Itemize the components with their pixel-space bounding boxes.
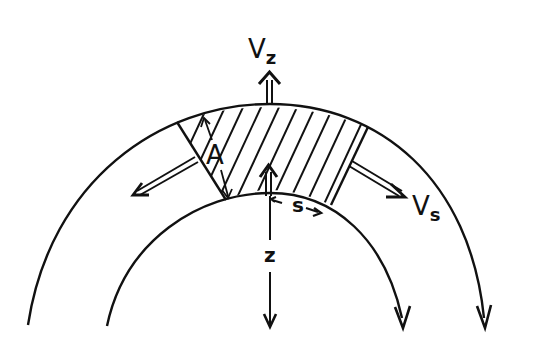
s-label: s [292,195,304,215]
vz-label: Vz [248,36,276,62]
inner-arc [107,193,402,326]
hatched-element [150,90,395,230]
vs-label-sub: s [430,204,441,225]
vs-arrow-right-icon [349,161,405,197]
vs-label-main: V [412,191,430,221]
vz-label-sub: z [266,47,276,68]
vz-label-main: V [248,34,266,64]
z-label: z [264,245,276,265]
vs-arrow-left-icon [133,157,198,195]
vs-label: Vs [412,193,441,219]
shell-diagram [0,0,553,347]
vz-arrow-icon [259,72,280,104]
a-label: A [206,142,224,168]
